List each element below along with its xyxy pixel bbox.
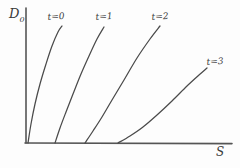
curve-t3 <box>118 68 207 143</box>
curve-label-t1: t=1 <box>95 12 112 22</box>
axes-group <box>25 8 232 144</box>
plot-canvas <box>0 0 240 168</box>
curve-label-t2: t=2 <box>151 12 168 22</box>
x-axis-line <box>25 143 232 144</box>
y-axis-label-subscript: 0 <box>19 15 24 24</box>
curve-t2 <box>85 26 160 143</box>
curve-t0 <box>28 26 62 143</box>
curve-label-t0: t=0 <box>47 12 64 22</box>
y-axis-label-text: D <box>9 6 19 21</box>
curve-label-t3: t=3 <box>206 57 223 67</box>
y-axis-label: D0 <box>9 7 25 24</box>
curves-group <box>28 26 207 143</box>
x-axis-label: S <box>216 146 224 158</box>
figure-container: D0 S t=0 t=1 t=2 t=3 <box>0 0 240 168</box>
